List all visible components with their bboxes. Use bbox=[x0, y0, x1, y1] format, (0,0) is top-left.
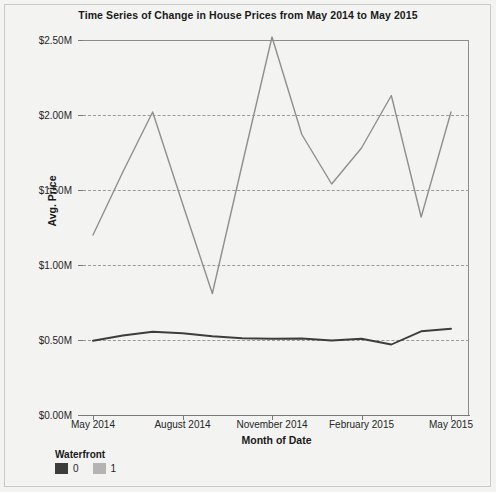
legend-title: Waterfront bbox=[55, 449, 116, 460]
legend-label: 0 bbox=[73, 463, 79, 474]
x-tick-mark bbox=[93, 415, 94, 420]
y-axis-title: Avg. Price bbox=[46, 141, 58, 261]
x-tick-mark bbox=[272, 415, 273, 420]
legend: Waterfront 01 bbox=[55, 449, 116, 474]
series-line-waterfront-1 bbox=[93, 37, 451, 294]
x-tick-label: May 2015 bbox=[391, 419, 496, 430]
legend-swatch-icon bbox=[55, 463, 68, 474]
y-tick-mark bbox=[78, 415, 83, 416]
legend-item-0[interactable]: 0 bbox=[55, 463, 79, 474]
y-tick-label: $1.00M bbox=[0, 260, 72, 271]
x-axis-line bbox=[83, 415, 470, 416]
y-tick-label: $2.50M bbox=[0, 35, 72, 46]
legend-items: 01 bbox=[55, 463, 116, 474]
y-tick-label: $0.50M bbox=[0, 335, 72, 346]
x-tick-mark bbox=[451, 415, 452, 420]
chart-canvas: Time Series of Change in House Prices fr… bbox=[0, 0, 496, 492]
series-lines bbox=[83, 40, 469, 415]
series-line-waterfront-0 bbox=[93, 329, 451, 345]
legend-item-1[interactable]: 1 bbox=[93, 463, 117, 474]
y-tick-label: $2.00M bbox=[0, 110, 72, 121]
plot-area bbox=[83, 40, 469, 415]
legend-swatch-icon bbox=[93, 463, 106, 474]
y-tick-label: $1.50M bbox=[0, 185, 72, 196]
x-tick-mark bbox=[362, 415, 363, 420]
x-tick-mark bbox=[183, 415, 184, 420]
legend-label: 1 bbox=[111, 463, 117, 474]
chart-title: Time Series of Change in House Prices fr… bbox=[0, 9, 496, 21]
x-axis-title: Month of Date bbox=[83, 434, 470, 446]
